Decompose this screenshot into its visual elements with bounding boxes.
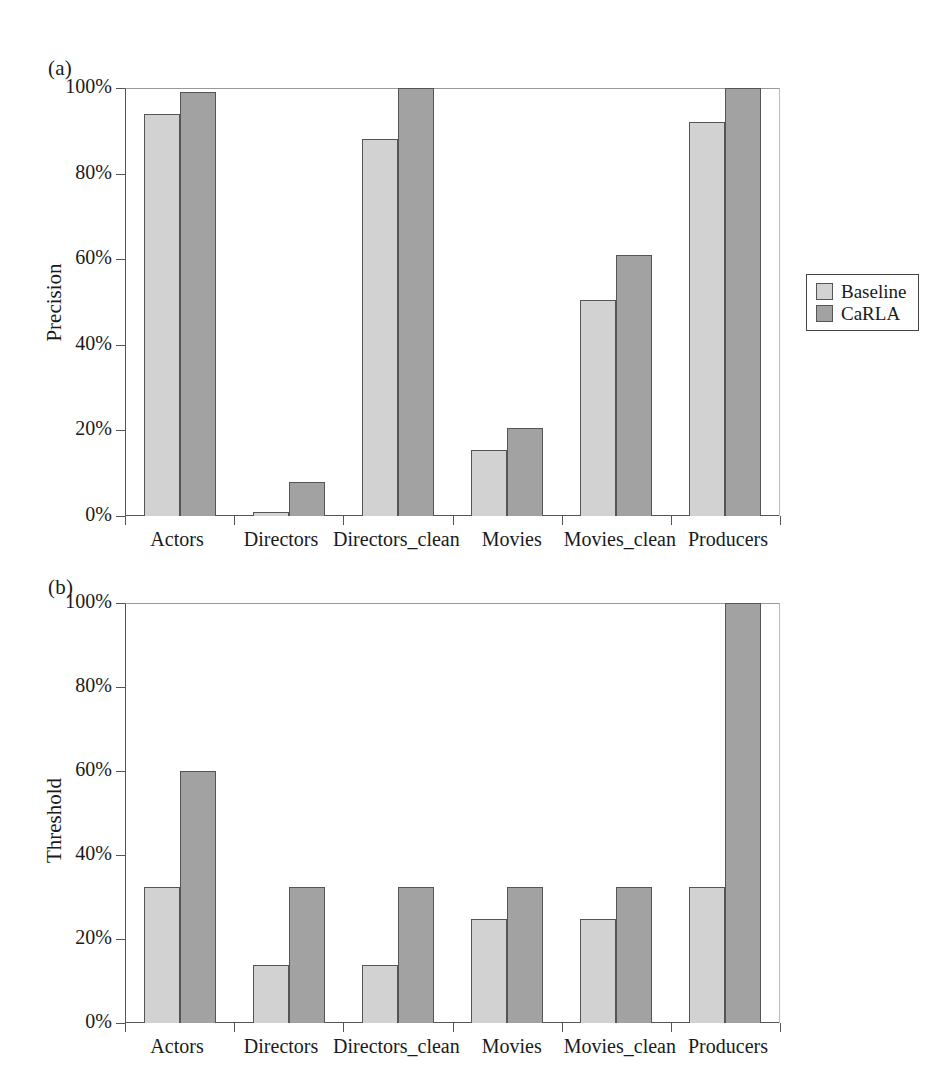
y-tick-mark <box>116 603 125 604</box>
bar-carla-producers[interactable] <box>725 603 761 1023</box>
y-tick-mark <box>116 771 125 772</box>
bar-carla-movies_clean[interactable] <box>616 255 652 516</box>
x-tick-mark <box>343 516 344 525</box>
legend-swatch-carla-icon <box>816 305 833 322</box>
bar-group <box>452 89 561 516</box>
x-axis-label-actors: Actors <box>125 1035 229 1058</box>
x-tick-mark <box>671 516 672 525</box>
bar-baseline-actors[interactable] <box>144 114 180 516</box>
x-tick-mark <box>343 1023 344 1032</box>
x-tick-mark <box>234 516 235 525</box>
bar-baseline-directors_clean[interactable] <box>362 139 398 516</box>
bar-carla-movies[interactable] <box>507 887 543 1024</box>
bar-baseline-actors[interactable] <box>144 887 180 1024</box>
panel-a-precision: (a) Precision 0%20%40%60%80%100% ActorsD… <box>0 0 930 565</box>
x-tick-mark <box>125 1023 126 1032</box>
panel-a-legend: Baseline CaRLA <box>806 274 919 331</box>
x-axis-label-actors: Actors <box>125 528 229 551</box>
y-tick-mark <box>116 855 125 856</box>
bar-carla-movies[interactable] <box>507 428 543 516</box>
panel-a-y-axis-title: Precision <box>42 243 67 363</box>
y-tick-mark <box>116 259 125 260</box>
bar-baseline-movies[interactable] <box>471 919 507 1023</box>
bar-group <box>344 604 453 1023</box>
y-tick-mark <box>116 430 125 431</box>
panel-b-x-labels: ActorsDirectorsDirectors_cleanMoviesMovi… <box>125 1035 780 1058</box>
x-axis-label-movies_clean: Movies_clean <box>564 1035 676 1058</box>
x-tick-mark <box>234 1023 235 1032</box>
bar-group <box>126 604 235 1023</box>
x-tick-mark <box>562 516 563 525</box>
bar-carla-directors_clean[interactable] <box>398 88 434 516</box>
legend-label-carla: CaRLA <box>841 304 900 323</box>
y-tick-label: 20% <box>75 417 112 440</box>
bar-baseline-producers[interactable] <box>689 887 725 1024</box>
x-tick-mark <box>125 516 126 525</box>
panel-a-bar-groups <box>126 89 779 516</box>
figure-two-panel-bar-charts: (a) Precision 0%20%40%60%80%100% ActorsD… <box>0 0 930 1081</box>
legend-entry-carla: CaRLA <box>816 304 906 323</box>
y-tick-mark <box>116 939 125 940</box>
panel-b-y-axis-title: Threshold <box>42 761 67 881</box>
x-axis-label-movies: Movies <box>460 528 564 551</box>
panel-b-plot-area <box>125 603 780 1023</box>
x-axis-label-producers: Producers <box>676 1035 780 1058</box>
x-axis-label-directors_clean: Directors_clean <box>333 1035 460 1058</box>
bar-carla-actors[interactable] <box>180 771 216 1023</box>
bar-group <box>235 89 344 516</box>
panel-a-x-ticks <box>0 516 930 525</box>
x-axis-label-movies: Movies <box>460 1035 564 1058</box>
legend-label-baseline: Baseline <box>841 282 906 301</box>
bar-baseline-producers[interactable] <box>689 122 725 516</box>
bar-group <box>344 89 453 516</box>
bar-group <box>561 89 670 516</box>
bar-group <box>561 604 670 1023</box>
bar-carla-producers[interactable] <box>725 88 761 516</box>
legend-entry-baseline: Baseline <box>816 282 906 301</box>
x-axis-label-directors: Directors <box>229 528 333 551</box>
x-tick-mark <box>780 516 781 525</box>
y-tick-mark <box>116 88 125 89</box>
y-tick-label: 40% <box>75 332 112 355</box>
bar-baseline-movies_clean[interactable] <box>580 919 616 1023</box>
x-axis-label-producers: Producers <box>676 528 780 551</box>
bar-group <box>126 89 235 516</box>
x-tick-mark <box>453 1023 454 1032</box>
panel-a-plot-area <box>125 88 780 516</box>
panel-b-threshold: (b) Threshold 0%20%40%60%80%100% ActorsD… <box>0 565 930 1081</box>
bar-carla-directors_clean[interactable] <box>398 887 434 1024</box>
y-tick-mark <box>116 174 125 175</box>
bar-baseline-movies[interactable] <box>471 450 507 516</box>
bar-carla-directors[interactable] <box>289 482 325 516</box>
x-tick-mark <box>453 516 454 525</box>
y-tick-label: 100% <box>65 75 112 98</box>
bar-baseline-directors[interactable] <box>253 965 289 1023</box>
y-tick-label: 20% <box>75 926 112 949</box>
y-tick-label: 40% <box>75 842 112 865</box>
bar-carla-directors[interactable] <box>289 887 325 1024</box>
panel-a-x-labels: ActorsDirectorsDirectors_cleanMoviesMovi… <box>125 528 780 551</box>
y-tick-label: 80% <box>75 161 112 184</box>
panel-b-x-ticks <box>0 1023 930 1032</box>
legend-swatch-baseline-icon <box>816 283 833 300</box>
x-tick-mark <box>562 1023 563 1032</box>
bar-group <box>670 89 779 516</box>
x-axis-label-directors: Directors <box>229 1035 333 1058</box>
x-axis-label-directors_clean: Directors_clean <box>333 528 460 551</box>
y-tick-mark <box>116 345 125 346</box>
y-tick-label: 60% <box>75 246 112 269</box>
bar-baseline-movies_clean[interactable] <box>580 300 616 516</box>
bar-carla-actors[interactable] <box>180 92 216 516</box>
bar-group <box>670 604 779 1023</box>
bar-baseline-directors_clean[interactable] <box>362 965 398 1023</box>
x-tick-mark <box>671 1023 672 1032</box>
panel-b-bar-groups <box>126 604 779 1023</box>
bar-group <box>452 604 561 1023</box>
y-tick-mark <box>116 687 125 688</box>
y-tick-label: 100% <box>65 590 112 613</box>
bar-group <box>235 604 344 1023</box>
x-axis-label-movies_clean: Movies_clean <box>564 528 676 551</box>
y-tick-label: 60% <box>75 758 112 781</box>
y-tick-label: 80% <box>75 674 112 697</box>
bar-carla-movies_clean[interactable] <box>616 887 652 1024</box>
